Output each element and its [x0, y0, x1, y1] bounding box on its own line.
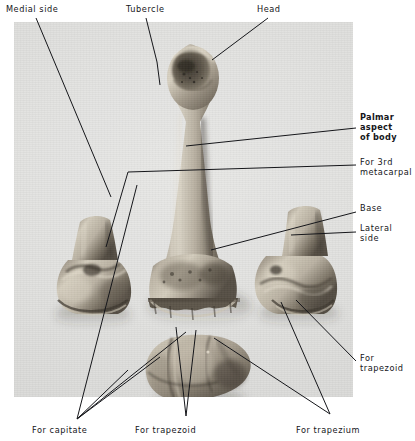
label-for-capitate: For capitate — [32, 425, 87, 435]
label-for-trapezium: For trapezium — [296, 425, 360, 435]
label-base: Base — [360, 203, 382, 213]
plate-illustration — [14, 22, 353, 397]
label-medial-side: Medial side — [6, 4, 58, 14]
label-tubercle: Tubercle — [126, 4, 165, 14]
anatomical-figure: Medial sideTubercleHeadPalmar aspect of … — [0, 0, 415, 441]
label-for-3rd-metacarpal: For 3rd metacarpal — [360, 157, 412, 177]
label-head: Head — [257, 4, 281, 14]
label-for-trapezoid-bottom: For trapezoid — [135, 425, 196, 435]
label-for-trapezoid-right: For trapezoid — [360, 353, 404, 373]
label-palmar-aspect: Palmar aspect of body — [360, 112, 397, 143]
label-lateral-side: Lateral side — [360, 223, 392, 243]
photographic-plate — [14, 22, 353, 397]
